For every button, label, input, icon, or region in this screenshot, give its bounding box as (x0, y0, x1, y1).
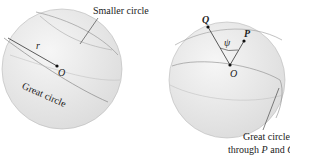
caption-through: through (228, 144, 262, 155)
smaller-circle-label: Smaller circle (93, 5, 149, 16)
caption-and: and (268, 144, 287, 155)
point-q-label: Q (202, 14, 209, 25)
point-p-label: P (244, 28, 250, 39)
center-label-left: O (58, 67, 65, 78)
caption-q: Q (287, 144, 290, 155)
caption-line1: Great circle (243, 131, 290, 142)
caption-line2: through P and Q (228, 144, 290, 155)
angle-psi-label: ψ (224, 37, 230, 48)
center-label-right: O (230, 68, 237, 79)
point-q (206, 25, 209, 28)
center-point-right (228, 63, 231, 66)
point-p (242, 39, 245, 42)
radius-label: r (36, 40, 40, 51)
